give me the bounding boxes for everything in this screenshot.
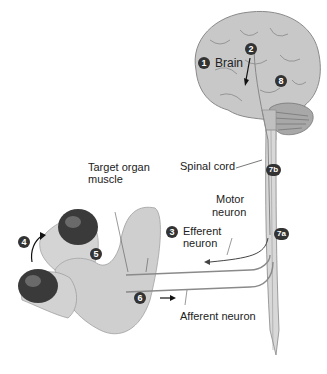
step-badge-3: 3 xyxy=(166,226,178,238)
dumbbell-lowered xyxy=(18,269,58,303)
efferent-neuron-label-line2: neuron xyxy=(183,237,217,249)
target-organ-label-line2: muscle xyxy=(88,173,123,185)
motor-neuron-label-line1: Motor xyxy=(216,193,244,205)
spinal-cord-label: Spinal cord xyxy=(180,160,235,172)
diagram-artwork xyxy=(0,0,327,374)
step-badge-2: 2 xyxy=(245,43,257,55)
step-badge-4: 4 xyxy=(18,236,30,248)
target-organ-label-line1: Target organ xyxy=(88,161,150,173)
reflex-arc-diagram: Brain Spinal cord Target organ muscle Mo… xyxy=(0,0,327,374)
efferent-neuron-label-line1: Efferent xyxy=(183,225,221,237)
dumbbell-raised xyxy=(58,209,98,245)
motor-neuron-fiber xyxy=(210,238,268,262)
step-badge-1: 1 xyxy=(198,57,210,69)
step-badge-5: 5 xyxy=(90,248,102,260)
step-badge-6: 6 xyxy=(134,292,146,304)
motor-neuron-label-line2: neuron xyxy=(212,206,246,218)
afferent-neuron-label: Afferent neuron xyxy=(180,310,256,322)
step-badge-8: 8 xyxy=(275,75,287,87)
brain-illustration xyxy=(195,11,320,140)
step-badge-7b: 7b xyxy=(266,164,281,176)
brain-label: Brain xyxy=(215,57,243,69)
step-badge-7a: 7a xyxy=(274,228,289,240)
